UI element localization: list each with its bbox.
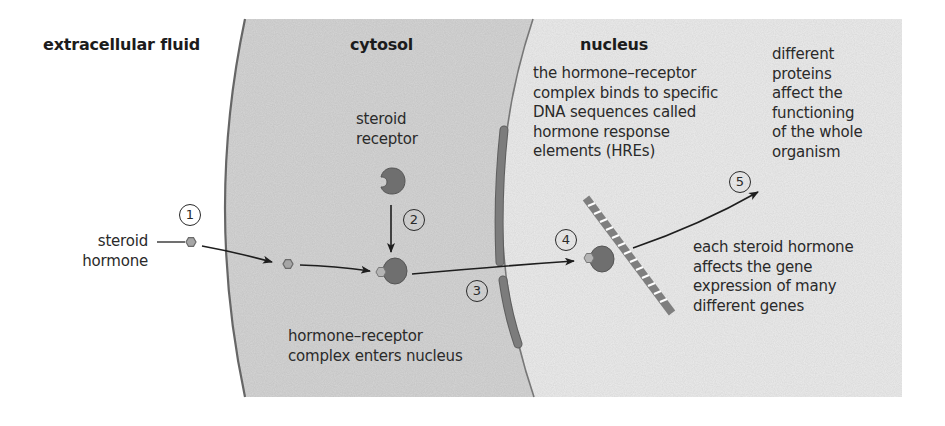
step-5-badge: 5	[729, 171, 751, 193]
step-2-badge: 2	[403, 209, 425, 231]
receptor-complex-icon	[383, 258, 407, 284]
label-complex-enters: hormone–receptor complex enters nucleus	[288, 327, 463, 366]
label-steroid-hormone: steroid hormone	[82, 232, 148, 271]
region-label-cytosol: cytosol	[350, 35, 413, 54]
label-binds-hres: the hormone–receptor complex binds to sp…	[533, 64, 718, 162]
steroid-hormone-icon	[584, 254, 594, 263]
region-label-nucleus: nucleus	[580, 35, 648, 54]
step-4-badge: 4	[555, 229, 577, 251]
label-different-proteins: different proteins affect the functionin…	[772, 45, 863, 162]
step-3-badge: 3	[466, 280, 488, 302]
steroid-hormone-icon	[186, 238, 196, 247]
region-label-extracellular: extracellular fluid	[43, 35, 200, 54]
step-1-badge: 1	[179, 204, 201, 226]
label-gene-expression: each steroid hormone affects the gene ex…	[693, 238, 853, 316]
steroid-hormone-icon	[283, 260, 293, 269]
steroid-hormone-icon	[376, 268, 386, 277]
label-steroid-receptor: steroid receptor	[356, 110, 418, 149]
